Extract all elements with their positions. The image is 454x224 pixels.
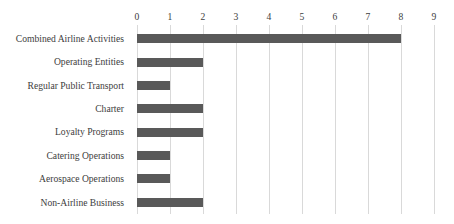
plot-area: [137, 27, 434, 214]
x-tick-label: 0: [135, 12, 140, 22]
category-label-text: Loyalty Programs: [55, 127, 124, 137]
category-label: Non-Airline Business: [0, 191, 130, 214]
bar[interactable]: [137, 151, 170, 160]
category-label: Catering Operations: [0, 144, 130, 167]
bar-row: [137, 191, 434, 214]
bar[interactable]: [137, 81, 170, 90]
x-tick-label: 5: [300, 12, 305, 22]
category-label-text: Combined Airline Activities: [16, 34, 124, 44]
category-label: Aerospace Operations: [0, 167, 130, 190]
bar[interactable]: [137, 34, 401, 43]
x-tick-label: 8: [399, 12, 404, 22]
category-label-text: Aerospace Operations: [39, 174, 124, 184]
bar[interactable]: [137, 174, 170, 183]
gridline: [434, 27, 435, 214]
bars-layer: [137, 27, 434, 214]
bar[interactable]: [137, 58, 203, 67]
category-label: Loyalty Programs: [0, 121, 130, 144]
x-tick-label: 3: [234, 12, 239, 22]
bar-row: [137, 50, 434, 73]
bar-row: [137, 121, 434, 144]
bar[interactable]: [137, 198, 203, 207]
bar-row: [137, 144, 434, 167]
category-label-text: Non-Airline Business: [41, 198, 124, 208]
x-tick-label: 9: [432, 12, 437, 22]
category-label-text: Catering Operations: [46, 151, 124, 161]
x-axis: 0123456789: [137, 12, 434, 27]
bar-row: [137, 27, 434, 50]
bar-row: [137, 167, 434, 190]
category-label-text: Regular Public Transport: [28, 81, 124, 91]
category-label: Charter: [0, 97, 130, 120]
category-label: Operating Entities: [0, 50, 130, 73]
bar[interactable]: [137, 128, 203, 137]
x-tick-label: 2: [201, 12, 206, 22]
category-label: Regular Public Transport: [0, 74, 130, 97]
category-label-text: Operating Entities: [54, 57, 124, 67]
x-tick-label: 1: [168, 12, 173, 22]
x-tick-label: 7: [366, 12, 371, 22]
x-tick-label: 6: [333, 12, 338, 22]
x-tick-label: 4: [267, 12, 272, 22]
category-label-text: Charter: [95, 104, 124, 114]
bar[interactable]: [137, 104, 203, 113]
bar-chart: 0123456789 Combined Airline ActivitiesOp…: [0, 0, 454, 224]
bar-row: [137, 74, 434, 97]
bar-row: [137, 97, 434, 120]
category-label: Combined Airline Activities: [0, 27, 130, 50]
category-axis-labels: Combined Airline ActivitiesOperating Ent…: [0, 27, 130, 214]
